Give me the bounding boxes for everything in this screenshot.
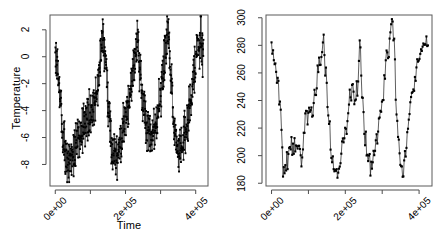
temperature-panel: Temperature Time	[0, 0, 222, 241]
y-tick-label: 180	[236, 168, 247, 198]
temperature-plot-area	[0, 0, 222, 241]
gas-levels-plot-area	[222, 0, 444, 241]
y-tick-label: 0	[20, 42, 31, 72]
y-tick-label: 280	[236, 30, 247, 60]
figure-canvas: Temperature Time Gas levels Time 20-2-4-…	[0, 0, 444, 241]
y-tick-label: -2	[20, 69, 31, 99]
y-tick-label: 240	[236, 86, 247, 116]
y-tick-label: -6	[20, 123, 31, 153]
y-tick-label: 2	[20, 15, 31, 45]
y-tick-label: 220	[236, 113, 247, 143]
y-tick-label: -8	[20, 149, 31, 179]
y-tick-label: 300	[236, 3, 247, 33]
y-tick-label: 200	[236, 141, 247, 171]
gas-levels-panel: Gas levels Time	[222, 0, 444, 241]
y-tick-label: 260	[236, 58, 247, 88]
y-tick-label: -4	[20, 96, 31, 126]
